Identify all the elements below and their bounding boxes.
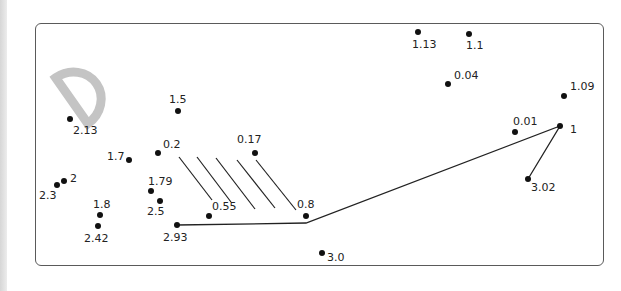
dot-label: 1.79 [148, 176, 173, 187]
dot [415, 29, 421, 35]
dot-label: 0.8 [297, 199, 315, 210]
dot [557, 123, 563, 129]
dot-label: 2.13 [73, 125, 98, 136]
dot [252, 150, 258, 156]
dot [95, 223, 101, 229]
dot-label: 0.04 [454, 70, 479, 81]
dot [97, 212, 103, 218]
dot-label: 0.01 [513, 116, 538, 127]
dot-label: 2.5 [147, 206, 165, 217]
hatch-line [197, 157, 231, 202]
dot-label: 0.2 [163, 139, 181, 150]
dot [61, 178, 67, 184]
dot-label: 1.5 [169, 94, 187, 105]
dot-label: 1.7 [107, 151, 125, 162]
dot-label: 2.93 [163, 232, 188, 243]
dot [174, 222, 180, 228]
dot [466, 31, 472, 37]
dot [148, 188, 154, 194]
dot-label: 2 [70, 173, 77, 184]
hatch-line [179, 157, 212, 200]
dot [445, 81, 451, 87]
puzzle-canvas [0, 0, 621, 291]
dot-label: 1.1 [466, 40, 484, 51]
hatch-line [237, 160, 275, 208]
dot-label: 1.13 [412, 39, 437, 50]
dot [512, 129, 518, 135]
dot [155, 150, 161, 156]
dot-label: 3.02 [531, 182, 556, 193]
dot-label: 1.09 [570, 81, 595, 92]
letter-d-decoration [56, 61, 113, 124]
dot [126, 157, 132, 163]
dot [561, 93, 567, 99]
dot-label: 1.8 [93, 199, 111, 210]
dot [319, 250, 325, 256]
dot [206, 213, 212, 219]
dot-label: 3.0 [327, 252, 345, 263]
dot-label: 2.3 [39, 190, 57, 201]
dot-label: 0.17 [237, 134, 262, 145]
dot [303, 213, 309, 219]
dot [157, 198, 163, 204]
dot [67, 116, 73, 122]
hatch-line [256, 160, 296, 210]
dot-label: 0.55 [212, 201, 237, 212]
dot-label: 1 [570, 124, 577, 135]
dot [175, 108, 181, 114]
dot-label: 2.42 [84, 233, 109, 244]
dot [54, 182, 60, 188]
